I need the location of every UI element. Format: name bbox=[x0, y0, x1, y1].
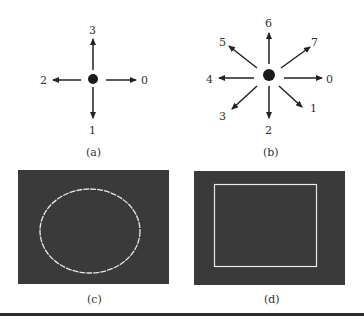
figure-d-rectangle: (d) bbox=[194, 171, 345, 306]
direction-label-2: 2 bbox=[265, 124, 272, 137]
direction-label-1: 1 bbox=[310, 102, 317, 115]
figure-a-4-direction: 0 1 2 3 (a) bbox=[40, 24, 148, 159]
arrow-1-icon bbox=[279, 86, 302, 107]
direction-label-0: 0 bbox=[141, 74, 148, 87]
direction-label-5: 5 bbox=[219, 36, 226, 49]
direction-label-2: 2 bbox=[40, 74, 47, 87]
arrow-7-icon bbox=[281, 47, 310, 68]
arrow-5-icon bbox=[229, 46, 257, 68]
direction-label-3: 3 bbox=[219, 110, 226, 123]
caption-d: (d) bbox=[264, 293, 280, 306]
figure-c-ellipse: (c) bbox=[18, 170, 169, 306]
direction-label-7: 7 bbox=[311, 36, 318, 49]
center-dot-icon bbox=[88, 74, 98, 84]
direction-label-0: 0 bbox=[326, 73, 333, 86]
caption-c: (c) bbox=[87, 293, 102, 306]
direction-label-3: 3 bbox=[89, 24, 96, 37]
direction-label-6: 6 bbox=[265, 17, 272, 30]
direction-label-4: 4 bbox=[206, 73, 213, 86]
figure-b-8-direction: 0 1 2 3 4 5 6 7 (b) bbox=[206, 17, 333, 159]
direction-label-1: 1 bbox=[89, 124, 96, 137]
arrow-3-icon bbox=[232, 86, 257, 109]
caption-a: (a) bbox=[86, 146, 101, 159]
caption-b: (b) bbox=[263, 146, 279, 159]
center-dot-icon bbox=[263, 69, 275, 81]
panel-d bbox=[194, 171, 345, 285]
figure-canvas: 0 1 2 3 (a) 0 1 2 3 4 5 6 7 (b) (c) (d) bbox=[0, 0, 364, 321]
bottom-rule bbox=[0, 313, 364, 316]
